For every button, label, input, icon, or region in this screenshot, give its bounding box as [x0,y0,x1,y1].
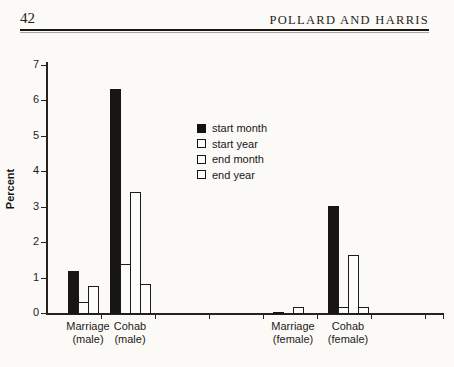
x-category-label-cohab-male-: Cohab(male) [85,320,175,346]
legend-swatch-end-year [197,170,206,179]
y-tick-label: 2 [21,235,39,247]
y-axis-tick [41,65,46,66]
x-category-label-line: (female) [303,333,393,346]
legend-label: start month [212,122,267,134]
y-axis-tick [41,207,46,208]
y-axis-tick [41,313,46,314]
x-category-label-cohab-female-: Cohab(female) [303,320,393,346]
bar-end-month-marriage-female- [293,307,304,314]
x-axis-tick [209,315,210,319]
bar-end-year-cohab-female- [358,307,369,314]
scanned-paper-page: 42 POLLARD AND HARRIS Percent 01234567Ma… [0,0,454,367]
x-axis-tick [425,315,426,319]
y-axis-tick [41,136,46,137]
legend-item-start-month: start month [197,122,267,135]
bar-end-month-cohab-female- [348,255,359,314]
legend-swatch-start-month [197,124,206,133]
x-axis-line [46,313,444,315]
x-axis-tick [263,315,264,319]
percent-bar-chart: Percent 01234567Marriage(male)Cohab(male… [0,0,454,367]
y-axis-tick [41,171,46,172]
legend-swatch-start-year [197,139,206,148]
bar-start-month-cohab-female- [328,206,339,314]
x-category-label-line: Cohab [85,320,175,333]
y-tick-label: 0 [21,306,39,318]
x-category-label-line: Cohab [303,320,393,333]
legend-label: end year [212,169,255,181]
y-axis-tick [41,100,46,101]
legend-item-end-month: end month [197,153,267,166]
y-axis-line [46,62,48,314]
bar-start-month-marriage-female- [273,312,284,314]
y-axis-title: Percent [4,149,20,229]
y-tick-label: 6 [21,93,39,105]
x-axis-tick [371,315,372,319]
legend-label: end month [212,153,264,165]
legend-item-start-year: start year [197,138,267,151]
bar-end-year-cohab-male- [140,284,151,314]
y-tick-label: 7 [21,58,39,70]
x-axis-tick [155,315,156,319]
x-axis-tick [317,315,318,319]
y-tick-label: 4 [21,164,39,176]
x-axis-tick [443,315,444,319]
x-axis-tick [101,315,102,319]
legend-label: start year [212,138,258,150]
y-tick-label: 1 [21,271,39,283]
bar-end-month-marriage-male- [88,286,99,314]
y-axis-tick [41,242,46,243]
legend-item-end-year: end year [197,169,267,182]
x-category-label-line: (male) [85,333,175,346]
legend-swatch-end-month [197,155,206,164]
y-tick-label: 3 [21,200,39,212]
chart-legend: start monthstart yearend monthend year [197,122,267,181]
y-axis-tick [41,278,46,279]
y-tick-label: 5 [21,129,39,141]
